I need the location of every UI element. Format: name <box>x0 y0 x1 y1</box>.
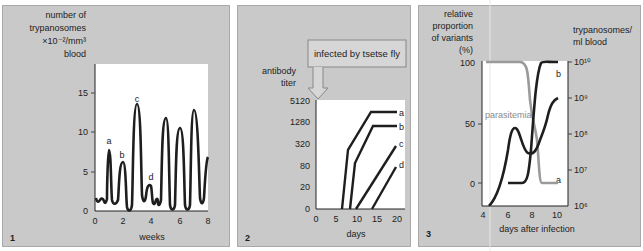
y-tick: 20 <box>300 182 310 192</box>
peak-label: c <box>135 94 140 104</box>
x-tick: 5 <box>333 214 338 224</box>
series-label: a <box>399 108 404 118</box>
y-label-line: (%) <box>459 45 473 55</box>
y-tick: 10⁸ <box>574 129 588 139</box>
series-label: c <box>399 139 404 149</box>
x-tick: 8 <box>205 216 210 226</box>
y-tick: 80 <box>300 161 310 171</box>
x-axis-label: days after infection <box>499 224 575 234</box>
x-tick: 20 <box>392 214 402 224</box>
series-label: b <box>556 69 561 79</box>
y-label-line: ml blood <box>573 37 607 47</box>
x-tick: 10 <box>552 210 562 220</box>
series-label: d <box>399 160 404 170</box>
annotation-text: infected by tsetse fly <box>314 48 400 59</box>
y-tick: 10¹⁰ <box>574 57 591 67</box>
y-tick: 10⁶ <box>574 201 588 211</box>
x-tick: 8 <box>529 210 534 220</box>
y-tick: 0 <box>470 179 475 189</box>
infection-annotation: infected by tsetse fly <box>308 40 406 99</box>
x-tick: 4 <box>148 216 153 226</box>
chart-2: infected by tsetse fly antibody titer 0 … <box>245 40 406 243</box>
figure: number of trypanosomes ×10⁻²/mm³ blood 0… <box>0 0 643 251</box>
y-label-line: ×10⁻²/mm³ <box>42 36 86 46</box>
y-tick: 10 <box>78 127 88 137</box>
y-label-line: trypanosomes/ <box>573 25 633 35</box>
panel-number: 2 <box>245 233 250 243</box>
peak-label: d <box>148 172 153 182</box>
y-tick: 1280 <box>290 117 310 127</box>
chart-3: relative proportion of variants (%) 100 … <box>426 0 633 251</box>
x-tick: 0 <box>313 214 318 224</box>
x-tick: 4 <box>480 210 485 220</box>
peak-label: b <box>119 150 124 160</box>
parasitemia-label: parasitemia <box>485 110 532 120</box>
y-tick: 10⁷ <box>574 165 587 175</box>
x-tick: 0 <box>92 216 97 226</box>
peak-label: a <box>106 136 111 146</box>
y-label-line: number of <box>45 10 86 20</box>
x-tick: 15 <box>372 214 382 224</box>
y-label-line: antibody <box>262 66 297 76</box>
x-tick: 6 <box>505 210 510 220</box>
y-tick: 0 <box>83 206 88 216</box>
chart-1: number of trypanosomes ×10⁻²/mm³ blood 0… <box>10 10 211 243</box>
y-tick: 5120 <box>290 96 310 106</box>
y-label-line: blood <box>64 49 86 59</box>
y-tick: 100 <box>460 58 475 68</box>
x-axis-label: weeks <box>138 232 165 242</box>
y-tick: 50 <box>465 119 475 129</box>
x-tick: 2 <box>120 216 125 226</box>
x-tick: 6 <box>177 216 182 226</box>
y-tick: 10⁹ <box>574 93 588 103</box>
x-axis-label: days <box>346 229 366 239</box>
x-tick: 10 <box>352 214 362 224</box>
y-label-line: trypanosomes <box>29 23 86 33</box>
y-label-line: proportion <box>432 21 473 31</box>
series-label: b <box>399 122 404 132</box>
panel-number: 3 <box>426 229 431 239</box>
y-tick: 5 <box>83 167 88 177</box>
y-label-line: relative <box>444 9 473 19</box>
y-tick: 15 <box>78 88 88 98</box>
y-tick: 320 <box>295 139 310 149</box>
panel-number: 1 <box>10 233 15 243</box>
y-label-line: of variants <box>431 33 473 43</box>
y-label-line: titer <box>281 78 296 88</box>
y-tick: 0 <box>305 204 310 214</box>
